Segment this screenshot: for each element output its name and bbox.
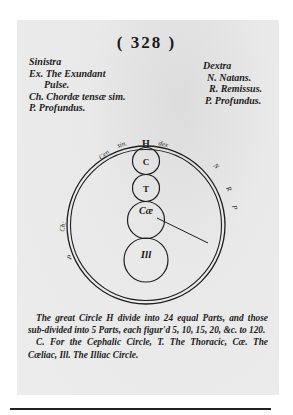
pointer-line xyxy=(157,218,208,243)
ring-label-n: N xyxy=(211,161,221,171)
great-circle-inner-ring xyxy=(71,150,222,301)
label-cae: Cæ xyxy=(139,205,153,216)
bottom-rule xyxy=(10,408,271,410)
label-h: H xyxy=(142,138,150,149)
label-c: C xyxy=(143,157,150,167)
great-circle-outer-ring xyxy=(67,146,225,304)
label-t: T xyxy=(143,184,149,194)
ring-label-r: R xyxy=(224,184,234,193)
ring-label-ch: Ch: xyxy=(58,221,68,233)
ring-label-p-right: P xyxy=(230,203,239,211)
caption-text: The great Circle H divide into 24 equal … xyxy=(28,312,268,361)
label-ill: Ill xyxy=(140,248,152,260)
caption-paragraph-legend: C. For the Cephalic Circle, T. The Thora… xyxy=(28,336,268,360)
illiac-circle xyxy=(124,238,168,282)
caption-paragraph-division: The great Circle H divide into 24 equal … xyxy=(28,312,268,336)
ring-label-dex: dex xyxy=(158,139,170,149)
